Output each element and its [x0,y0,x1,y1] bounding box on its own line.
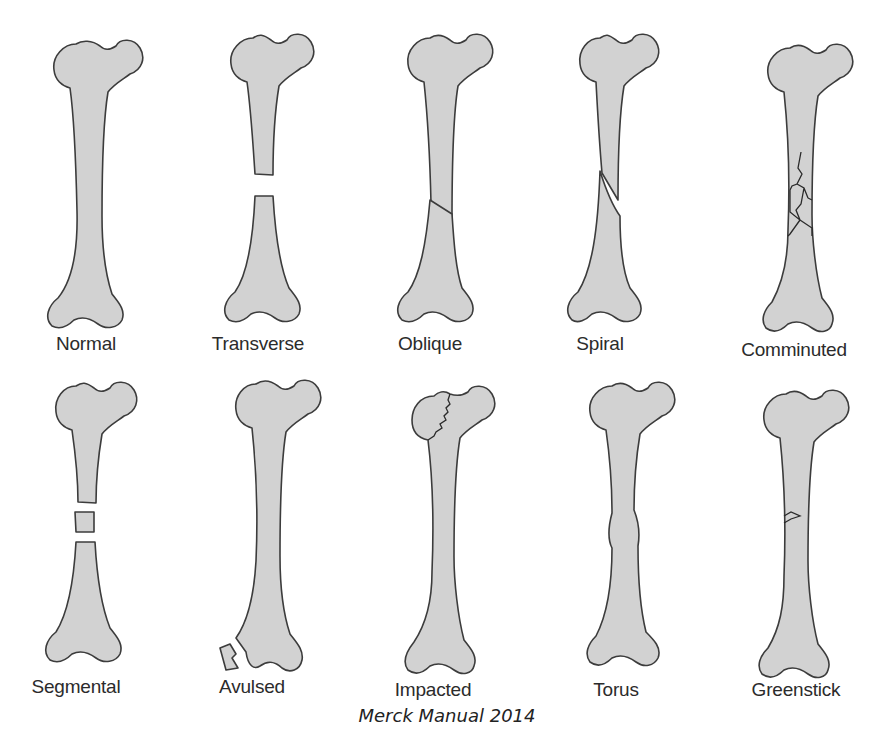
label-normal: Normal [1,333,171,355]
bone-spiral [568,34,659,321]
bone-normal [48,40,143,327]
bone-greenstick [759,390,849,677]
bone-transverse [225,34,314,321]
label-spiral: Spiral [515,333,685,355]
label-oblique: Oblique [345,333,515,355]
label-avulsed: Avulsed [167,676,337,698]
bone-oblique [398,34,493,321]
label-transverse: Transverse [173,333,343,355]
bone-torus [587,382,675,665]
label-impacted: Impacted [348,679,518,701]
bone-comminuted [763,44,853,331]
bone-impacted [405,386,495,673]
label-comminuted: Comminuted [709,339,879,361]
bone-avulsed [220,380,321,671]
bone-segmental [46,382,137,661]
fracture-diagram [0,0,894,755]
label-greenstick: Greenstick [711,679,881,701]
figure-caption: Merck Manual 2014 [359,705,536,726]
label-segmental: Segmental [0,676,161,698]
label-torus: Torus [531,679,701,701]
